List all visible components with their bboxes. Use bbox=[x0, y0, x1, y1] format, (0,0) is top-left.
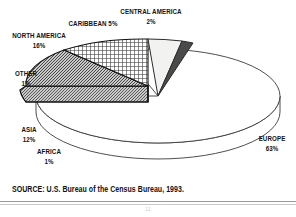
pie-label-asia-name: ASIA bbox=[21, 124, 36, 133]
page-number: 11 bbox=[0, 206, 296, 212]
pie-label-africa-name: AFRICA bbox=[37, 146, 61, 155]
pie-chart-figure: NORTH AMERICA 16% CARIBBEAN 5% CENTRAL A… bbox=[0, 0, 296, 217]
pie-label-other-name: OTHER bbox=[15, 68, 37, 77]
pie-label-africa: AFRICA 1% bbox=[28, 146, 70, 166]
pie-label-caribbean: CARIBBEAN 5% bbox=[62, 18, 124, 28]
pie-label-north-america: NORTH AMERICA 16% bbox=[6, 30, 72, 50]
source-note: SOURCE: U.S. Bureau of the Census Bureau… bbox=[12, 184, 184, 193]
pie-label-central-america-name: CENTRAL AMERICA bbox=[120, 6, 181, 15]
pie-label-other-value: 1% bbox=[6, 78, 46, 88]
pie-label-central-america-value: 2% bbox=[116, 16, 186, 26]
pie-label-europe: EUROPE 63% bbox=[252, 133, 292, 153]
pie-label-north-america-value: 16% bbox=[6, 40, 72, 50]
footer-divider bbox=[0, 201, 296, 202]
pie-label-other: OTHER 1% bbox=[6, 68, 46, 88]
pie-label-asia-value: 12% bbox=[10, 134, 48, 144]
chart-plot-area: NORTH AMERICA 16% CARIBBEAN 5% CENTRAL A… bbox=[0, 0, 296, 182]
pie-label-asia: ASIA 12% bbox=[10, 124, 48, 144]
pie-label-central-america: CENTRAL AMERICA 2% bbox=[116, 6, 186, 26]
pie-label-europe-name: EUROPE bbox=[259, 133, 286, 142]
pie-label-africa-value: 1% bbox=[28, 156, 70, 166]
pie-label-caribbean-name: CARIBBEAN 5% bbox=[69, 18, 118, 27]
pie-label-north-america-name: NORTH AMERICA bbox=[12, 30, 66, 39]
pie-label-europe-value: 63% bbox=[252, 143, 292, 153]
footer-divider-secondary bbox=[0, 204, 296, 205]
